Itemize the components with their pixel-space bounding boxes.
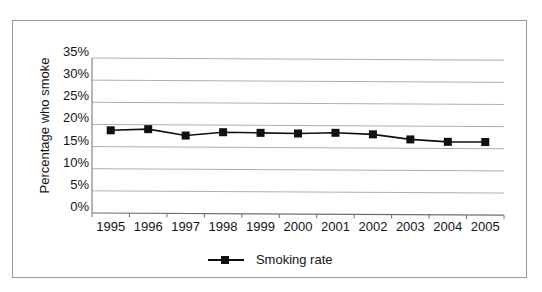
data-point-marker bbox=[219, 128, 227, 136]
y-axis-tick-labels: 0%5%10%15%20%25%30%35% bbox=[47, 51, 89, 206]
legend-label: Smoking rate bbox=[249, 252, 333, 267]
data-point-marker bbox=[481, 138, 489, 146]
y-axis-tick-label: 0% bbox=[47, 200, 89, 213]
plot-svg bbox=[92, 58, 504, 213]
x-axis-tick-label: 1995 bbox=[90, 219, 132, 234]
y-axis-tick-label: 20% bbox=[47, 111, 89, 124]
data-point-marker bbox=[331, 129, 339, 137]
plot-region bbox=[92, 58, 504, 213]
chart-area: Percentage who smoke 0%5%10%15%20%25%30%… bbox=[13, 21, 528, 279]
data-point-marker bbox=[369, 130, 377, 138]
data-point-marker bbox=[182, 132, 190, 140]
legend-entry-smoking-rate: Smoking rate bbox=[208, 250, 332, 268]
x-axis-tick-label: 2001 bbox=[314, 219, 356, 234]
y-axis-tick-label: 10% bbox=[47, 156, 89, 169]
x-axis-tick-label: 1997 bbox=[165, 219, 207, 234]
data-point-marker bbox=[294, 130, 302, 138]
data-point-marker bbox=[257, 129, 265, 137]
y-axis-tick-label: 30% bbox=[47, 67, 89, 80]
x-axis-tick-label: 1998 bbox=[202, 219, 244, 234]
data-point-marker bbox=[444, 138, 452, 146]
chart-legend: Smoking rate bbox=[13, 249, 528, 268]
series-markers-smoking-rate bbox=[107, 125, 490, 146]
y-axis-tick-label: 15% bbox=[47, 134, 89, 147]
y-axis-tick-label: 25% bbox=[47, 89, 89, 102]
x-axis-tick-label: 1999 bbox=[240, 219, 282, 234]
x-axis-tick-labels: 1995199619971998199920002001200220032004… bbox=[92, 219, 504, 237]
square-marker-icon bbox=[208, 254, 244, 266]
data-point-marker bbox=[107, 126, 115, 134]
chart-outer-frame: Percentage who smoke 0%5%10%15%20%25%30%… bbox=[12, 20, 527, 278]
y-axis-tick-label: 35% bbox=[47, 45, 89, 58]
x-axis-tick-label: 2003 bbox=[389, 219, 431, 234]
x-axis-tick-label: 2000 bbox=[277, 219, 319, 234]
x-axis-tick-label: 1996 bbox=[127, 219, 169, 234]
x-axis-tick-label: 2005 bbox=[464, 219, 506, 234]
data-point-marker bbox=[406, 135, 414, 143]
y-axis-tick-label: 5% bbox=[47, 178, 89, 191]
x-axis-tick-label: 2004 bbox=[427, 219, 469, 234]
x-axis-tick-label: 2002 bbox=[352, 219, 394, 234]
data-point-marker bbox=[144, 125, 152, 133]
